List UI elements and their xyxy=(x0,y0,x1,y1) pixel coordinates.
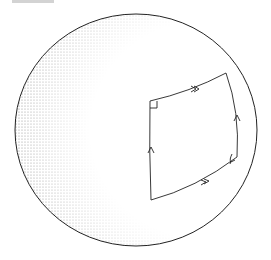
sphere-diagram xyxy=(0,0,271,260)
sphere-shading xyxy=(15,14,257,246)
